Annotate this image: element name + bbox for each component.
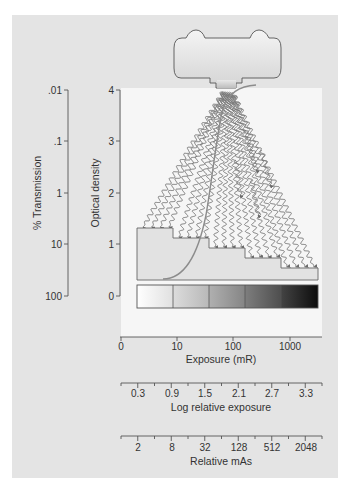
log-tick-1.5: 1.5 — [198, 388, 212, 399]
od-tick-4: 4 — [108, 85, 114, 96]
optical-density-axis — [116, 90, 120, 296]
mas-tick-512: 512 — [264, 442, 281, 453]
transmission-tick-0: .01 — [48, 85, 62, 96]
exposure-tick-10: 10 — [171, 341, 183, 352]
relative-mas-axis — [121, 436, 322, 441]
mas-tick-128: 128 — [231, 442, 248, 453]
transmission-axis-label: % Transmission — [31, 156, 43, 230]
log-tick-2.1: 2.1 — [232, 388, 246, 399]
figure-svg: .01 .1 1 10 100 % Transmission 4 3 2 1 0… — [0, 0, 345, 490]
log-relative-exposure-axis — [121, 383, 322, 388]
transmission-tick-4: 100 — [45, 291, 62, 302]
mas-tick-32: 32 — [199, 442, 211, 453]
transmission-tick-2: 1 — [56, 188, 62, 199]
transmission-tick-3: 10 — [51, 239, 63, 250]
log-tick-3.3: 3.3 — [299, 388, 313, 399]
mas-tick-2048: 2048 — [295, 442, 318, 453]
od-tick-0: 0 — [108, 291, 114, 302]
transmission-tick-1: .1 — [54, 136, 63, 147]
log-tick-0.9: 0.9 — [165, 388, 179, 399]
exposure-tick-1000: 1000 — [279, 341, 302, 352]
x-ray-tube-icon — [174, 30, 281, 88]
log-relative-exposure-label: Log relative exposure — [171, 401, 272, 413]
density-strip — [137, 285, 318, 308]
mas-tick-8: 8 — [169, 442, 175, 453]
transmission-axis — [64, 90, 68, 296]
mas-tick-2: 2 — [135, 442, 141, 453]
log-tick-2.7: 2.7 — [265, 388, 279, 399]
exposure-axis-label: Exposure (mR) — [186, 353, 257, 365]
exposure-tick-0: 0 — [118, 341, 124, 352]
exposure-tick-100: 100 — [225, 341, 242, 352]
od-tick-1: 1 — [108, 239, 114, 250]
log-tick-0.3: 0.3 — [131, 388, 145, 399]
od-tick-2: 2 — [108, 188, 114, 199]
relative-mas-label: Relative mAs — [190, 455, 252, 467]
optical-density-axis-label: Optical density — [89, 158, 101, 228]
od-tick-3: 3 — [108, 136, 114, 147]
